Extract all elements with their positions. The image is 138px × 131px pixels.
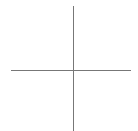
axes-svg xyxy=(0,0,138,131)
diagram-canvas xyxy=(0,0,138,131)
